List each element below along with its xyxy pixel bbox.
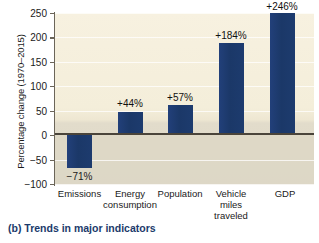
bar-energy[interactable] xyxy=(118,112,143,134)
bar-value-population: +57% xyxy=(167,92,193,103)
bar-value-energy: +44% xyxy=(117,98,143,109)
bar-population[interactable] xyxy=(168,105,193,133)
y-tick-label-minus-100: −100 xyxy=(7,179,47,190)
y-tick-label-250: 250 xyxy=(7,8,47,19)
bar-vehicle[interactable] xyxy=(219,43,244,133)
gridline-minus-100 xyxy=(55,184,314,185)
x-label-vehicle: Vehicle miles traveled xyxy=(214,188,248,221)
x-label-emissions: Emissions xyxy=(58,188,101,199)
x-label-gdp: GDP xyxy=(275,188,296,199)
bar-value-vehicle: +184% xyxy=(215,30,246,41)
y-tick-label-minus-50: −50 xyxy=(7,154,47,165)
figure-container: Percentage change (1970–2015) 250 200 15… xyxy=(0,0,319,243)
bar-gdp[interactable] xyxy=(270,13,295,133)
y-tick-label-150: 150 xyxy=(7,56,47,67)
y-tick-label-100: 100 xyxy=(7,81,47,92)
zero-line xyxy=(55,133,314,135)
x-label-population: Population xyxy=(158,188,203,199)
figure-caption: (b) Trends in major indicators xyxy=(8,222,156,234)
plot-area: −71% +44% +57% +184% +246% xyxy=(55,13,314,185)
y-tick-label-200: 200 xyxy=(7,32,47,43)
gridline-minus-50 xyxy=(55,160,314,161)
y-tick-label-50: 50 xyxy=(7,105,47,116)
bar-value-gdp-overlay: +246% xyxy=(266,1,297,12)
bar-value-emissions: −71% xyxy=(67,171,93,182)
y-tick-label-0: 0 xyxy=(7,130,47,141)
bar-emissions[interactable] xyxy=(67,133,92,168)
x-label-energy: Energy consumption xyxy=(103,188,157,210)
